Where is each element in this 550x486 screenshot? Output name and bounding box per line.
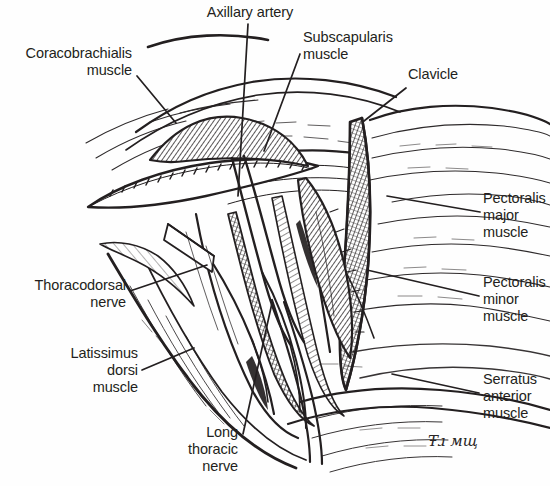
pectoralis-major-body bbox=[370, 106, 550, 124]
latissimus-dorsi-fibers bbox=[130, 286, 244, 426]
label-clavicle: Clavicle bbox=[408, 66, 478, 83]
label-axillary-artery: Axillary artery bbox=[190, 4, 310, 21]
deltoid-contour bbox=[148, 35, 268, 47]
artist-signature: Ŧɹ мщ bbox=[428, 432, 478, 450]
label-coracobrachialis-muscle: Coracobrachialis muscle bbox=[4, 45, 132, 79]
label-latissimus-dorsi-muscle: Latissimus dorsi muscle bbox=[18, 345, 138, 396]
label-serratus-anterior-muscle: Serratus anterior muscle bbox=[483, 371, 550, 422]
label-pectoralis-minor-muscle: Pectoralis minor muscle bbox=[483, 274, 550, 325]
label-pectoralis-major-muscle: Pectoralis major muscle bbox=[483, 190, 550, 241]
label-subscapularis-muscle: Subscapularis muscle bbox=[303, 29, 413, 63]
anatomical-figure: Axillary artery Coracobrachialis muscle … bbox=[0, 0, 550, 486]
label-long-thoracic-nerve: Long thoracic nerve bbox=[140, 424, 238, 475]
label-thoracodorsal-nerve: Thoracodorsal nerve bbox=[4, 277, 126, 311]
